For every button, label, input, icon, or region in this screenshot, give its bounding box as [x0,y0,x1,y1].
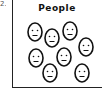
face-icon [45,29,59,47]
face-icon [79,38,93,56]
face-icon [29,49,43,67]
people-illustration [0,0,102,95]
face-icon [28,23,42,41]
face-icon [57,48,71,66]
face-icon [63,22,77,40]
face-icon [43,64,57,82]
face-icon [75,64,89,82]
